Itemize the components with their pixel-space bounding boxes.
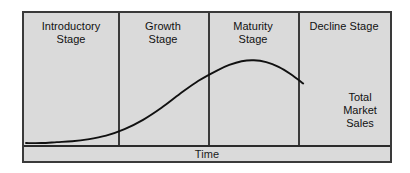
total-market-sales-curve [24, 13, 390, 161]
total-market-sales-label: Total Market Sales [333, 91, 387, 130]
time-axis-label: Time [195, 148, 219, 160]
sales-curve-path [26, 60, 303, 143]
total-market-sales-label-line2: Market [333, 104, 387, 117]
plot-area: Introductory Stage Growth Stage Maturity… [24, 13, 390, 145]
total-market-sales-label-line3: Sales [333, 117, 387, 130]
time-axis-band: Time [24, 147, 390, 161]
chart-frame: Introductory Stage Growth Stage Maturity… [22, 11, 392, 163]
product-life-cycle-figure: Introductory Stage Growth Stage Maturity… [0, 0, 410, 173]
total-market-sales-label-line1: Total [333, 91, 387, 104]
